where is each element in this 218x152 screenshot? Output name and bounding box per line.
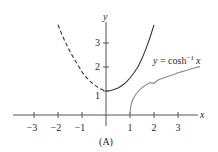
figure-caption: (A) xyxy=(99,136,113,148)
x-axis-label: x xyxy=(199,109,205,120)
x-tick-label: 1 xyxy=(128,122,133,133)
x-tick-label: 3 xyxy=(176,122,181,133)
x-tick-labels: −3 −2 −1 1 2 3 xyxy=(27,122,181,133)
x-tick-label: −2 xyxy=(51,122,62,133)
cosh-curve-dashed xyxy=(58,25,106,91)
y-tick-label: 3 xyxy=(95,37,100,48)
label-eq: = cosh xyxy=(157,55,186,66)
cosh-curve-solid xyxy=(106,25,154,91)
y-tick-label: 1 xyxy=(95,90,100,101)
label-sup: −1 xyxy=(186,54,194,62)
y-tick-labels: 1 2 3 xyxy=(95,37,100,101)
arccosh-curve-label: y = cosh−1x xyxy=(152,54,201,66)
arccosh-curve xyxy=(130,67,200,115)
cosh-arccosh-graph: −3 −2 −1 1 2 3 1 2 3 x y y = cosh−1x (A) xyxy=(0,0,218,152)
label-var: x xyxy=(195,55,201,66)
x-tick-label: −1 xyxy=(75,122,86,133)
x-tick-label: 2 xyxy=(152,122,157,133)
y-tick-label: 2 xyxy=(95,61,100,72)
y-axis-label: y xyxy=(102,11,108,22)
x-tick-label: −3 xyxy=(27,122,38,133)
